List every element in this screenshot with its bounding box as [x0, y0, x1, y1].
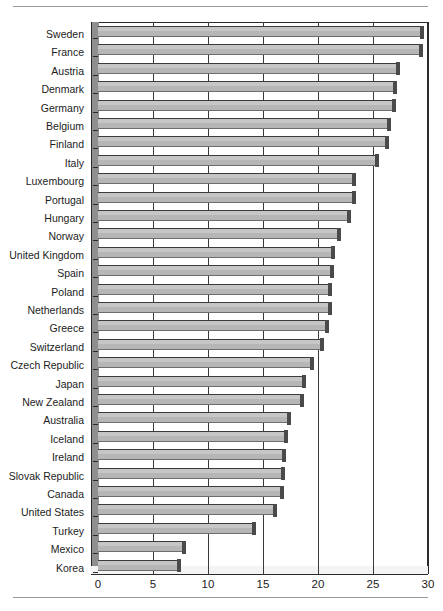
bar-czech-republic [98, 357, 310, 368]
bar-end-cap [310, 357, 314, 370]
bar-denmark [98, 81, 393, 92]
bar-end-cap [331, 246, 335, 259]
bar-end-cap [419, 44, 423, 57]
category-label-ireland: Ireland [52, 451, 84, 463]
bar-end-cap [273, 504, 277, 517]
bar-belgium [98, 118, 387, 129]
category-label-turkey: Turkey [52, 525, 84, 537]
bar-highlight [98, 413, 287, 417]
bar-highlight [98, 505, 273, 509]
category-label-canada: Canada [47, 488, 84, 500]
category-tick [93, 424, 98, 425]
bar-end-cap [325, 320, 329, 333]
bar-row: Poland [0, 280, 443, 300]
bar-greece [98, 320, 325, 331]
x-tick-label-0: 0 [83, 578, 113, 591]
category-label-slovak-republic: Slovak Republic [9, 470, 84, 482]
x-tick-label-20: 20 [303, 578, 333, 591]
category-tick [93, 222, 98, 223]
bar-highlight [98, 174, 352, 178]
bar-row: Korea [0, 556, 443, 576]
bar-end-cap [396, 62, 400, 75]
bar-row: Norway [0, 224, 443, 244]
category-label-czech-republic: Czech Republic [10, 359, 84, 371]
bar-united-states [98, 504, 273, 515]
bar-new-zealand [98, 394, 300, 405]
bar-end-cap [352, 191, 356, 204]
bar-highlight [98, 395, 300, 399]
bar-row: Luxembourg [0, 169, 443, 189]
category-tick [93, 75, 98, 76]
category-label-luxembourg: Luxembourg [26, 175, 84, 187]
category-label-greece: Greece [50, 322, 84, 334]
bar-highlight [98, 45, 419, 49]
bar-row: Italy [0, 151, 443, 171]
x-tick-label-10: 10 [193, 578, 223, 591]
bar-poland [98, 284, 328, 295]
category-tick [93, 480, 98, 481]
category-tick [93, 388, 98, 389]
x-tick-label-15: 15 [248, 578, 278, 591]
bar-row: Netherlands [0, 298, 443, 318]
bar-end-cap [393, 81, 397, 94]
bar-row: Greece [0, 316, 443, 336]
bar-end-cap [328, 283, 332, 296]
bar-row: Spain [0, 261, 443, 281]
category-label-netherlands: Netherlands [27, 304, 84, 316]
category-tick [93, 443, 98, 444]
category-label-mexico: Mexico [51, 543, 84, 555]
category-tick [93, 351, 98, 352]
bar-france [98, 44, 419, 55]
bar-end-cap [280, 486, 284, 499]
x-axis-tick-labels: 051015202530 [0, 578, 443, 594]
bar-australia [98, 412, 287, 423]
bar-row: Australia [0, 408, 443, 428]
category-tick [93, 296, 98, 297]
bar-end-cap [252, 522, 256, 535]
category-tick [93, 314, 98, 315]
bar-row: Slovak Republic [0, 464, 443, 484]
bar-row: Switzerland [0, 335, 443, 355]
category-label-japan: Japan [55, 378, 84, 390]
category-tick [93, 332, 98, 333]
bar-highlight [98, 119, 387, 123]
bar-mexico [98, 541, 182, 552]
category-label-france: France [51, 46, 84, 58]
bar-highlight [98, 101, 392, 105]
bar-highlight [98, 303, 328, 307]
category-tick [93, 277, 98, 278]
bar-finland [98, 136, 385, 147]
bar-end-cap [392, 99, 396, 112]
bar-end-cap [385, 136, 389, 149]
category-label-spain: Spain [57, 267, 84, 279]
category-label-sweden: Sweden [46, 28, 84, 40]
bar-end-cap [320, 338, 324, 351]
bar-luxembourg [98, 173, 352, 184]
bar-spain [98, 265, 330, 276]
bar-highlight [98, 229, 337, 233]
bar-end-cap [282, 449, 286, 462]
category-tick [93, 56, 98, 57]
bar-highlight [98, 358, 310, 362]
bar-end-cap [328, 302, 332, 315]
bar-hungary [98, 210, 347, 221]
bar-slovak-republic [98, 468, 281, 479]
bar-highlight [98, 211, 347, 215]
category-tick [93, 93, 98, 94]
bar-end-cap [352, 173, 356, 186]
bar-highlight [98, 137, 385, 141]
category-tick [93, 572, 98, 573]
bar-chart-plot-area: SwedenFranceAustriaDenmarkGermanyBelgium… [0, 14, 443, 574]
bar-end-cap [287, 412, 291, 425]
bar-highlight [98, 64, 396, 68]
bar-row: Canada [0, 482, 443, 502]
category-label-finland: Finland [50, 138, 84, 150]
bar-highlight [98, 193, 352, 197]
bar-highlight [98, 27, 420, 31]
bar-row: Sweden [0, 22, 443, 42]
category-label-germany: Germany [41, 102, 84, 114]
category-label-korea: Korea [56, 562, 84, 574]
bar-row: Germany [0, 96, 443, 116]
category-tick [93, 461, 98, 462]
bar-iceland [98, 431, 284, 442]
